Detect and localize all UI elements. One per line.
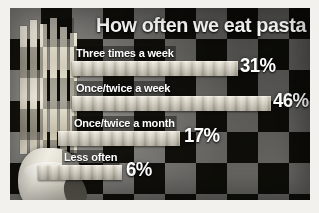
pasta-survey-infographic: How often we eat pasta Three times a wee… [0, 0, 319, 213]
bar-value-label: 31% [240, 55, 276, 75]
bar-value-label: 46% [273, 90, 309, 110]
page-title: How often we eat pasta [96, 14, 306, 35]
bar-category-label: Once/twice a week [74, 81, 172, 96]
bar-value-label: 6% [126, 159, 152, 179]
bar-category-label: Once/twice a month [72, 116, 177, 131]
bar-fill [38, 165, 122, 180]
bar-fill [72, 96, 271, 111]
bar-category-label: Less often [62, 150, 119, 165]
bar-category-label: Three times a week [74, 46, 176, 61]
bar-fill [58, 131, 180, 146]
bar-value-label: 17% [184, 125, 220, 145]
infographic-canvas: How often we eat pasta Three times a wee… [10, 8, 310, 200]
bar-fill [72, 61, 238, 76]
